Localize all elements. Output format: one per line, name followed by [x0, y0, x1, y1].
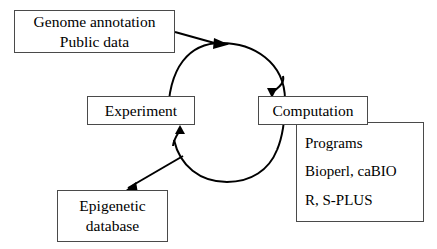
diagram-canvas: Genome annotation Public data Experiment…	[0, 0, 437, 249]
node-programs-line-2: Bioperl, caBIO	[305, 162, 397, 181]
node-programs-line-3: R, S-PLUS	[305, 191, 373, 210]
node-computation-label: Computation	[273, 101, 354, 121]
node-programs-line-1: Programs	[305, 134, 363, 153]
arrow-cycle-to-epidb-shaft	[128, 156, 183, 188]
node-computation[interactable]: Computation	[258, 96, 368, 125]
arrow-to-experiment-arrowhead	[175, 125, 185, 134]
node-epidb-line-1: Epigenetic	[79, 196, 145, 216]
node-programs-panel[interactable]: Programs Bioperl, caBIO R, S-PLUS	[296, 122, 424, 222]
node-experiment-label: Experiment	[105, 101, 177, 121]
node-epidb-line-2: database	[86, 216, 139, 236]
arrow-genome-to-cycle-shaft	[175, 32, 218, 44]
node-epigenetic-database[interactable]: Epigenetic database	[57, 190, 168, 242]
node-genome-annotation-public-data[interactable]: Genome annotation Public data	[14, 10, 175, 53]
node-genome-line-2: Public data	[60, 32, 129, 52]
cycle-arc-lower-left	[174, 140, 277, 182]
node-experiment[interactable]: Experiment	[87, 96, 195, 125]
node-genome-line-1: Genome annotation	[34, 12, 156, 32]
